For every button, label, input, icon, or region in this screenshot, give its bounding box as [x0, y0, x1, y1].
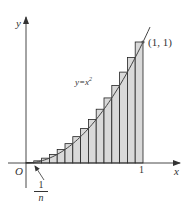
riemann-rectangle: [88, 119, 96, 163]
curve-label-text: y=x: [75, 77, 89, 87]
riemann-rectangle: [81, 129, 89, 163]
riemann-rectangle: [135, 42, 143, 163]
fraction-denominator: n: [34, 192, 48, 203]
riemann-sum-figure: y x O 1 (1, 1) y=x2 1 n: [0, 0, 188, 215]
y-axis-label: y: [16, 18, 21, 29]
riemann-rectangle: [112, 86, 120, 163]
fraction-numerator: 1: [34, 180, 48, 192]
origin-label: O: [15, 166, 23, 177]
riemann-rectangle: [120, 72, 128, 163]
riemann-rectangles: [26, 42, 143, 163]
subinterval-width-label: 1 n: [34, 180, 48, 203]
riemann-rectangle: [49, 154, 57, 163]
riemann-rectangle: [127, 58, 135, 163]
x-axis-label: x: [174, 166, 179, 177]
plot-canvas: [0, 0, 188, 215]
curve-label: y=x2: [75, 76, 92, 87]
curve-label-exponent: 2: [89, 76, 92, 82]
point-1-1-marker: [141, 40, 144, 43]
width-pointer-arrow: [35, 166, 44, 180]
point-label: (1, 1): [148, 37, 172, 48]
x-tick-label-one: 1: [139, 165, 144, 175]
